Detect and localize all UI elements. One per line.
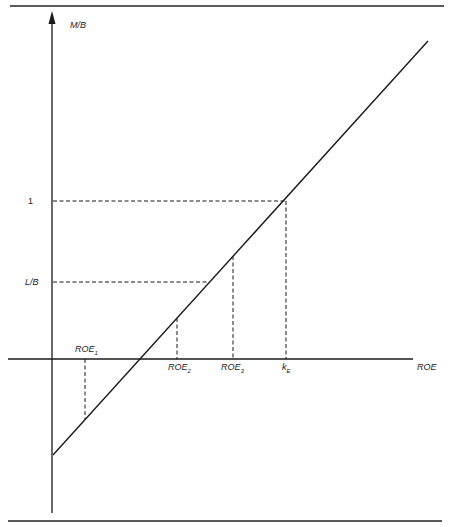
x-mark-ke: kE [282,362,291,374]
y-axis-label: M/B [70,20,86,30]
x-mark-roe1: ROE1 [75,344,98,356]
x-mark-roe2: ROE2 [168,362,191,374]
x-mark-roe3: ROE3 [221,362,244,374]
y-tick-lb: L/B [25,277,39,287]
y-tick-one: 1 [28,196,33,206]
mb-roe-line [53,41,428,455]
diagram-canvas [0,0,454,527]
x-axis-label: ROE [417,362,437,372]
y-axis-arrow-icon [49,11,56,24]
